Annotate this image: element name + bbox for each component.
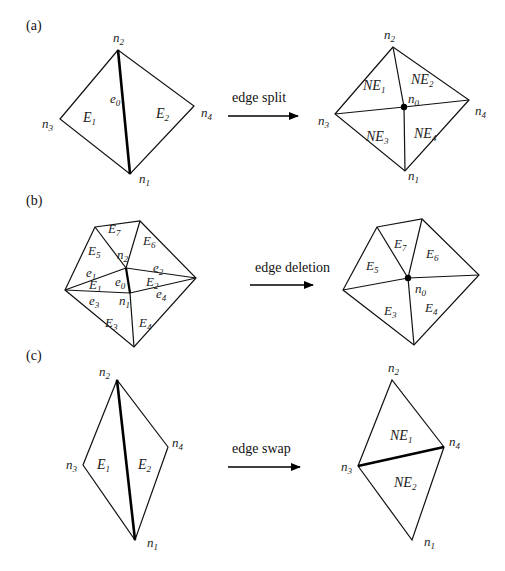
svg-text:E4: E4 bbox=[424, 300, 438, 317]
edge-n2-n1 bbox=[117, 380, 135, 540]
element-NE2-label: NE bbox=[410, 72, 429, 87]
panel-label-c: (c) bbox=[26, 348, 42, 364]
svg-text:n3: n3 bbox=[341, 459, 353, 476]
svg-text:E1: E1 bbox=[96, 457, 110, 474]
svg-text:n4: n4 bbox=[201, 105, 213, 122]
panel-c: (c) n2 n3 n4 n1 E1 E2 edge swap n2 n3 n4… bbox=[26, 348, 461, 552]
svg-text:NE1: NE1 bbox=[362, 78, 385, 95]
edge-n0-n1 bbox=[404, 107, 405, 171]
node-n0-dot-icon bbox=[401, 104, 407, 110]
svg-text:n1: n1 bbox=[119, 293, 130, 310]
figure-canvas: (a) n2 n3 n1 n4 e0 E1 E2 edge split n2 n… bbox=[0, 0, 505, 571]
svg-text:n2: n2 bbox=[117, 247, 129, 264]
panel-c-after-mesh: n2 n3 n4 n1 NE1 NE2 bbox=[341, 360, 461, 551]
svg-text:e4: e4 bbox=[156, 286, 167, 303]
element-E7-label: E bbox=[107, 221, 116, 236]
element-E5-label: E bbox=[365, 258, 374, 273]
element-E3-label: E bbox=[104, 315, 113, 330]
operation-label-edge-split: edge split bbox=[232, 90, 286, 105]
svg-text:E1: E1 bbox=[88, 277, 101, 294]
svg-text:e2: e2 bbox=[153, 260, 164, 277]
svg-text:n3: n3 bbox=[42, 116, 54, 133]
element-E2-label: E bbox=[155, 106, 165, 121]
element-NE2-label: NE bbox=[393, 475, 412, 490]
element-NE3-label: NE bbox=[365, 129, 384, 144]
svg-text:e3: e3 bbox=[89, 293, 100, 310]
element-NE1-label: NE bbox=[389, 428, 408, 443]
panel-a-before-mesh: n2 n3 n1 n4 e0 E1 E2 bbox=[42, 30, 213, 188]
panel-c-before-mesh: n2 n3 n4 n1 E1 E2 bbox=[66, 364, 184, 552]
svg-text:NE2: NE2 bbox=[393, 475, 417, 492]
edge-e0 bbox=[118, 50, 130, 174]
pentagon-outline bbox=[343, 219, 479, 345]
svg-text:e0: e0 bbox=[110, 91, 121, 108]
svg-text:n4: n4 bbox=[172, 435, 184, 452]
element-E1-label: E bbox=[96, 457, 106, 472]
element-NE4-label: NE bbox=[413, 126, 432, 141]
element-E2-label: E bbox=[145, 274, 154, 289]
svg-text:NE4: NE4 bbox=[413, 126, 437, 143]
svg-text:NE2: NE2 bbox=[410, 72, 434, 89]
mesh-operations-diagram: (a) n2 n3 n1 n4 e0 E1 E2 edge split n2 n… bbox=[0, 0, 505, 571]
panel-b-before-mesh: E7 E6 E5 n2 e1 e2 E1 e0 E2 e4 e3 n1 E3 E… bbox=[65, 221, 196, 347]
edge bbox=[408, 278, 414, 345]
edge-e0 bbox=[126, 268, 130, 293]
element-E2-label: E bbox=[137, 457, 147, 472]
edge bbox=[408, 275, 479, 278]
element-E1-label: E bbox=[82, 110, 92, 125]
panel-label-b: (b) bbox=[26, 193, 43, 209]
edge-e4 bbox=[130, 278, 196, 293]
edge bbox=[408, 219, 422, 278]
element-E4-label: E bbox=[138, 315, 147, 330]
svg-text:n0: n0 bbox=[408, 91, 420, 108]
svg-text:n2: n2 bbox=[384, 27, 396, 44]
svg-text:NE3: NE3 bbox=[365, 129, 389, 146]
svg-text:E7: E7 bbox=[393, 236, 407, 253]
edge-n3-n4 bbox=[358, 447, 444, 466]
svg-text:E3: E3 bbox=[104, 315, 118, 332]
element-E3-label: E bbox=[383, 303, 392, 318]
svg-text:E5: E5 bbox=[365, 258, 379, 275]
element-E7-label: E bbox=[393, 236, 402, 251]
svg-text:E5: E5 bbox=[87, 243, 101, 260]
element-E5-label: E bbox=[87, 243, 96, 258]
svg-text:n2: n2 bbox=[113, 30, 125, 47]
panel-b-after-mesh: E7 E6 E5 n0 E3 E4 bbox=[343, 219, 479, 345]
element-E1-label: E bbox=[88, 277, 97, 292]
quad-outline bbox=[358, 380, 444, 540]
operation-label-edge-swap: edge swap bbox=[232, 441, 291, 456]
pentagon-outline bbox=[65, 221, 196, 347]
svg-text:n2: n2 bbox=[388, 360, 400, 377]
edge bbox=[343, 278, 408, 290]
svg-text:n1: n1 bbox=[424, 534, 435, 551]
svg-text:n2: n2 bbox=[99, 364, 111, 381]
element-E6-label: E bbox=[142, 233, 151, 248]
operation-label-edge-deletion: edge deletion bbox=[255, 260, 330, 275]
svg-text:n3: n3 bbox=[66, 457, 78, 474]
svg-text:E1: E1 bbox=[82, 110, 96, 127]
svg-text:n1: n1 bbox=[147, 535, 158, 552]
svg-text:E2: E2 bbox=[155, 106, 170, 123]
svg-text:E6: E6 bbox=[425, 246, 439, 263]
panel-label-a: (a) bbox=[26, 18, 42, 34]
panel-a-after-mesh: n2 n3 n0 n4 n1 NE1 NE2 NE3 NE4 bbox=[318, 27, 487, 185]
node-n0-dot-icon bbox=[405, 275, 411, 281]
element-NE1-label: NE bbox=[362, 78, 381, 93]
svg-text:n0: n0 bbox=[415, 281, 427, 298]
svg-text:E2: E2 bbox=[137, 457, 152, 474]
element-E6-label: E bbox=[425, 246, 434, 261]
svg-text:e0: e0 bbox=[115, 274, 126, 291]
panel-b: (b) E7 E6 E5 n2 e1 e2 E1 e0 E2 e4 e3 n1 … bbox=[26, 193, 479, 347]
edge bbox=[126, 221, 140, 268]
element-E4-label: E bbox=[424, 300, 433, 315]
svg-text:n3: n3 bbox=[318, 113, 330, 130]
svg-text:E4: E4 bbox=[138, 315, 152, 332]
edge-n2-n0 bbox=[393, 47, 404, 107]
svg-text:n4: n4 bbox=[475, 103, 487, 120]
edge bbox=[130, 293, 134, 347]
panel-a: (a) n2 n3 n1 n4 e0 E1 E2 edge split n2 n… bbox=[26, 18, 487, 188]
edge-n3-n0 bbox=[335, 107, 404, 114]
svg-text:n1: n1 bbox=[139, 171, 150, 188]
svg-text:E3: E3 bbox=[383, 303, 397, 320]
svg-text:n1: n1 bbox=[408, 168, 419, 185]
